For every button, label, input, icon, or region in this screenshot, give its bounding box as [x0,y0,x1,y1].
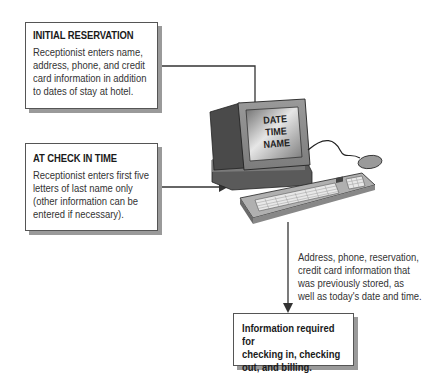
initial-reservation-description: Receptionist enters name, address, phone… [33,46,150,98]
check-in-box: AT CHECK IN TIME Receptionist enters fir… [25,143,158,231]
text-line: Receptionist enters name, [33,46,150,59]
output-information-text: Information required for checking in, ch… [242,322,345,374]
computer-screen: DATE TIME NAME [255,113,297,152]
check-in-description: Receptionist enters first five letters o… [33,169,150,221]
text-line: entered if necessary). [33,208,150,221]
text-line: letters of last name only [33,182,150,195]
text-line: address, phone, and credit [33,59,150,72]
initial-reservation-box: INITIAL RESERVATION Receptionist enters … [25,22,158,109]
text-line: credit card information that [298,264,442,277]
text-line: (other information can be [33,195,150,208]
initial-reservation-title: INITIAL RESERVATION [33,29,138,41]
output-information-box: Information required for checking in, ch… [233,313,354,366]
text-line: to dates of stay at hotel. [33,85,150,98]
connector-computer-to-output [283,222,293,313]
computer-illustration [210,99,383,224]
text-line: Receptionist enters first five [33,169,150,182]
text-line: checking in, checking [242,348,345,361]
check-in-title: AT CHECK IN TIME [33,152,138,164]
text-line: card information in addition [33,72,150,85]
text-line: was previously stored, as [298,277,442,290]
text-line: well as today's date and time. [298,290,442,303]
text-line: Address, phone, reservation, [298,251,442,264]
text-line: out, and billing. [242,361,345,374]
stored-information-note: Address, phone, reservation, credit card… [298,251,442,303]
text-line: Information required for [242,322,345,348]
